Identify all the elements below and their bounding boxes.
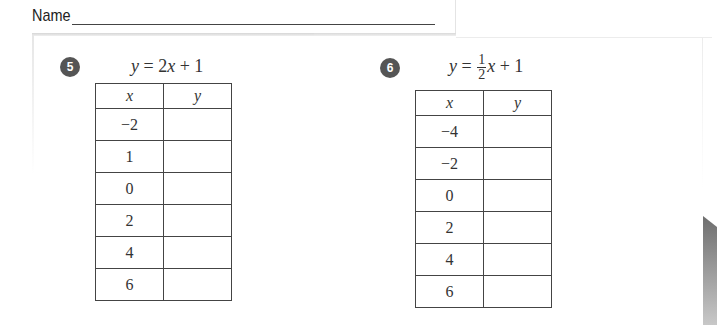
y-answer-cell[interactable]: [484, 212, 552, 244]
fraction-denominator: 2: [478, 68, 485, 82]
table-row: 4: [416, 244, 552, 276]
equation-lhs: y: [449, 56, 457, 76]
table-header-row: x y: [96, 84, 232, 109]
x-value: 1: [96, 141, 164, 173]
table-row: −4: [416, 116, 552, 148]
equation-coefficient: 2: [158, 56, 167, 76]
equation-variable: x: [167, 56, 175, 76]
table-row: 2: [416, 212, 552, 244]
xy-table-5: x y −2 1 0 2 4 6: [95, 83, 232, 301]
y-answer-cell[interactable]: [164, 237, 232, 269]
x-value: −4: [416, 116, 484, 148]
equation-constant: + 1: [500, 56, 524, 76]
column-header-y: y: [484, 91, 552, 116]
table-row: −2: [96, 109, 232, 141]
column-header-x: x: [416, 91, 484, 116]
table-header-row: x y: [416, 91, 552, 116]
equation-6: y = 12x + 1: [449, 53, 523, 82]
y-answer-cell[interactable]: [164, 109, 232, 141]
problem-number-badge: 5: [60, 57, 80, 77]
table-row: 1: [96, 141, 232, 173]
table-row: 6: [96, 269, 232, 301]
table-row: 2: [96, 205, 232, 237]
fraction: 12: [477, 53, 486, 82]
panel-border-right: [702, 38, 703, 188]
column-header-x: x: [96, 84, 164, 109]
y-answer-cell[interactable]: [164, 205, 232, 237]
x-value: 2: [416, 212, 484, 244]
x-value: 4: [96, 237, 164, 269]
panel-border-top: [456, 37, 712, 38]
fraction-numerator: 1: [477, 53, 486, 68]
x-value: 6: [96, 269, 164, 301]
y-answer-cell[interactable]: [164, 141, 232, 173]
y-answer-cell[interactable]: [484, 244, 552, 276]
x-value: 6: [416, 276, 484, 308]
name-label: Name: [32, 6, 71, 26]
y-answer-cell[interactable]: [484, 116, 552, 148]
header-divider: [455, 0, 456, 33]
y-answer-cell[interactable]: [484, 276, 552, 308]
table-row: −2: [416, 148, 552, 180]
xy-table-6: x y −4 −2 0 2 4 6: [415, 90, 552, 308]
x-value: 4: [416, 244, 484, 276]
table-row: 0: [96, 173, 232, 205]
table-row: 6: [416, 276, 552, 308]
y-answer-cell[interactable]: [164, 269, 232, 301]
y-answer-cell[interactable]: [484, 148, 552, 180]
name-input-line[interactable]: [72, 24, 435, 25]
y-answer-cell[interactable]: [164, 173, 232, 205]
x-value: 0: [416, 180, 484, 212]
x-value: −2: [416, 148, 484, 180]
x-value: 2: [96, 205, 164, 237]
equation-5: y = 2x + 1: [131, 56, 203, 77]
column-header-y: y: [164, 84, 232, 109]
panel-border-top: [32, 33, 314, 36]
panel-border-top: [314, 33, 456, 36]
problem-number-badge: 6: [380, 58, 400, 78]
x-value: 0: [96, 173, 164, 205]
equation-constant: + 1: [180, 56, 204, 76]
equation-lhs: y: [131, 56, 139, 76]
table-row: 4: [96, 237, 232, 269]
panel-border-left: [32, 35, 34, 175]
table-row: 0: [416, 180, 552, 212]
y-answer-cell[interactable]: [484, 180, 552, 212]
equation-variable: x: [487, 56, 495, 76]
page-curl-shadow: [703, 216, 717, 325]
x-value: −2: [96, 109, 164, 141]
